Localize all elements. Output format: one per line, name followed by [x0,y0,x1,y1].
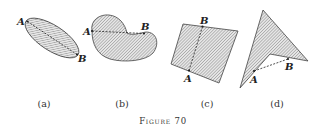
point-b-label: B [284,61,293,72]
point-a-label: A [249,74,258,85]
panel-a-label: (a) [37,98,50,109]
panel-b-label: (b) [115,98,129,109]
panel-b-shape: A B [82,15,157,61]
point-a-label: A [183,73,192,84]
figure-caption: Figure 70 [139,116,187,126]
figure-drawing: A B A B B A A B [0,0,326,132]
panel-d-shape: A B [240,10,308,88]
point-a-label: A [82,26,91,37]
panel-a-shape: A B [16,11,86,66]
point-b-label: B [140,21,149,32]
point-b-label: B [199,15,208,26]
panel-c-label: (c) [201,98,214,109]
panel-c-shape: B A [171,15,238,84]
panel-d-label: (d) [270,98,284,109]
point-b-label: B [77,53,86,64]
point-a-label: A [16,16,25,27]
